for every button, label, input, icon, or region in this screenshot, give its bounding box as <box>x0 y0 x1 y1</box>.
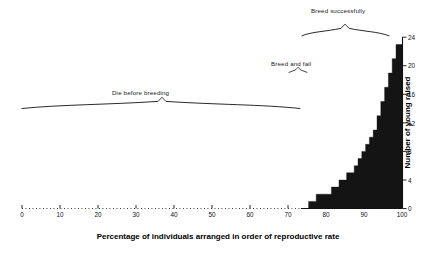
x-axis-title: Percentage of individuals arranged in or… <box>0 232 436 241</box>
xtick-label-0: 0 <box>12 211 32 218</box>
annotation-die-before-breeding: Die before breeding <box>112 89 169 96</box>
xtick-label-20: 20 <box>88 211 108 218</box>
xtick-label-40: 40 <box>164 211 184 218</box>
xtick-label-70: 70 <box>278 211 298 218</box>
xtick-label-50: 50 <box>202 211 222 218</box>
annotation-breed-and-fail: Breed and fail <box>271 60 311 67</box>
annotation-breed-successfully: Breed successfully <box>311 7 365 14</box>
xtick-label-90: 90 <box>354 211 374 218</box>
xtick-label-100: 100 <box>392 211 412 218</box>
y-axis-title: Number of young raised <box>403 48 412 198</box>
xtick-label-60: 60 <box>240 211 260 218</box>
ytick-label-24: 24 <box>408 34 415 41</box>
xtick-label-30: 30 <box>126 211 146 218</box>
ytick-label-0: 0 <box>408 205 412 212</box>
xtick-label-80: 80 <box>316 211 336 218</box>
xtick-label-10: 10 <box>50 211 70 218</box>
